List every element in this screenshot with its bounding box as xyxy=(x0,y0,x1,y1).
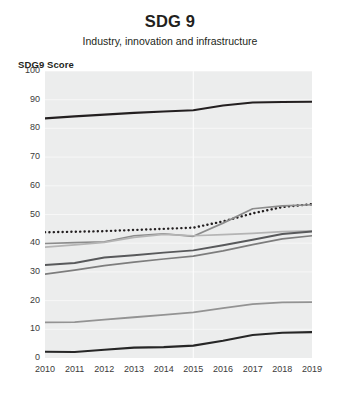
y-axis-tick-30: 30 xyxy=(10,266,40,276)
series-line-series-low-gray xyxy=(45,302,312,322)
chart-card: SDG 9 Industry, innovation and infrastru… xyxy=(0,0,340,404)
series-line-series-flat-light-gray xyxy=(45,231,312,247)
series-line-series-bottom-black xyxy=(45,332,312,352)
y-axis-tick-70: 70 xyxy=(10,151,40,161)
y-axis-tick-60: 60 xyxy=(10,180,40,190)
x-axis-tick-2019: 2019 xyxy=(292,364,332,374)
y-axis-tick-80: 80 xyxy=(10,122,40,132)
y-axis-tick-50: 50 xyxy=(10,209,40,219)
series-line-series-mid-dark-gray xyxy=(45,231,312,265)
series-line-series-top-black xyxy=(45,102,312,119)
series-line-series-rising-gray xyxy=(45,205,312,244)
y-axis-tick-40: 40 xyxy=(10,237,40,247)
y-axis-tick-0: 0 xyxy=(10,352,40,362)
line-chart-svg xyxy=(45,71,312,358)
y-axis-tick-20: 20 xyxy=(10,295,40,305)
y-axis-tick-10: 10 xyxy=(10,323,40,333)
y-axis-tick-90: 90 xyxy=(10,94,40,104)
plot-area: 0102030405060708090100201020112012201320… xyxy=(0,0,340,404)
y-axis-tick-100: 100 xyxy=(10,65,40,75)
series-line-series-dotted xyxy=(45,204,312,232)
